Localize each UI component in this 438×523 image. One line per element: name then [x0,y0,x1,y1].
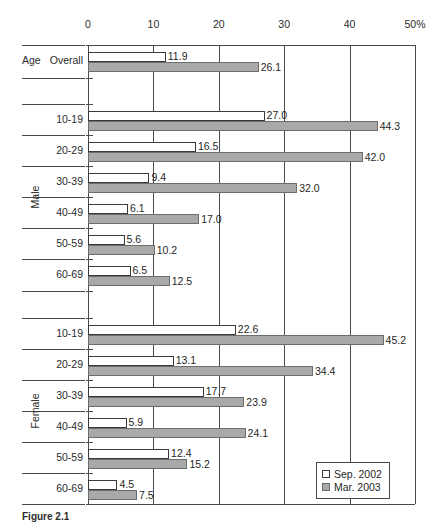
axis-row-tick [86,380,93,381]
bar-sep-2002 [88,387,204,397]
bar-chart: 01020304050%Overall10-1920-2930-3940-495… [0,0,438,523]
bar-sep-2002 [88,52,166,62]
group-label-female: Female [29,381,41,441]
bar-sep-2002 [88,204,128,214]
row-separator [22,45,85,46]
bar-sep-2002 [88,356,174,366]
row-separator [22,349,85,350]
row-separator [22,291,85,292]
axis-row-tick [86,166,93,167]
bar-mar-2003 [88,276,170,286]
bar-value-label: 22.6 [238,323,258,335]
category-label: 50-59 [25,237,85,249]
bar-mar-2003 [88,428,246,438]
bar-mar-2003 [88,490,137,500]
axis-row-tick [86,349,93,350]
bar-value-label: 5.9 [129,416,144,428]
bar-value-label: 42.0 [365,151,385,163]
axis-row-tick [86,197,93,198]
row-separator [22,135,85,136]
category-label: 60-69 [25,482,85,494]
row-separator [22,504,85,505]
row-separator [22,78,85,79]
bar-value-label: 23.9 [246,396,266,408]
axis-row-tick [86,504,93,505]
category-label: 20-29 [25,144,85,156]
legend-label: Sep. 2002 [334,468,382,480]
bar-value-label: 7.5 [139,489,154,501]
bar-sep-2002 [88,173,149,183]
bar-value-label: 12.5 [172,275,192,287]
row-separator [22,259,85,260]
category-label: 10-19 [25,113,85,125]
bar-value-label: 16.5 [198,140,218,152]
bar-mar-2003 [88,397,244,407]
gridline [415,45,416,504]
bar-value-label: 27.0 [267,109,287,121]
bar-sep-2002 [88,480,117,490]
legend-label: Mar. 2003 [334,481,381,493]
axis-row-tick [86,411,93,412]
bar-value-label: 4.5 [119,478,134,490]
bar-value-label: 17.7 [206,385,226,397]
x-axis-tick-label: 40 [325,18,375,30]
bar-sep-2002 [88,325,236,335]
bar-value-label: 44.3 [380,120,400,132]
open-square-swatch [322,470,330,478]
bar-value-label: 26.1 [261,61,281,73]
row-separator [22,104,85,105]
figure-caption: Figure 2.1 [22,511,69,523]
bar-value-label: 10.2 [157,244,177,256]
bar-mar-2003 [88,335,384,345]
x-axis-tick-label: 50% [390,18,438,30]
axis-row-tick [86,78,93,79]
bar-value-label: 34.4 [315,365,335,377]
x-axis-tick-label: 10 [128,18,178,30]
bar-mar-2003 [88,152,363,162]
bar-mar-2003 [88,214,199,224]
axis-row-tick [86,259,93,260]
row-separator [22,318,85,319]
bar-sep-2002 [88,266,131,276]
bar-mar-2003 [88,366,313,376]
category-label: 10-19 [25,327,85,339]
bar-sep-2002 [88,418,127,428]
bar-mar-2003 [88,245,155,255]
legend-item: Sep. 2002 [322,468,382,480]
axis-row-tick [86,442,93,443]
group-label-age: Age [22,54,41,66]
axis-row-tick [86,291,93,292]
axis-row-tick [86,135,93,136]
filled-square-swatch [322,483,330,491]
bar-value-label: 6.5 [133,264,148,276]
bar-value-label: 5.6 [127,233,142,245]
plot-frame-top [88,45,415,46]
bar-mar-2003 [88,121,378,131]
bar-sep-2002 [88,111,265,121]
axis-row-tick [86,45,93,46]
bar-sep-2002 [88,449,169,459]
legend-item: Mar. 2003 [322,481,382,493]
bar-mar-2003 [88,183,297,193]
x-axis-tick-label: 30 [259,18,309,30]
row-separator [22,228,85,229]
bar-value-label: 15.2 [189,458,209,470]
bar-mar-2003 [88,459,187,469]
bar-sep-2002 [88,142,196,152]
bar-sep-2002 [88,235,125,245]
row-separator [22,473,85,474]
gridline [350,45,351,504]
bar-value-label: 24.1 [248,427,268,439]
bar-mar-2003 [88,62,259,72]
bar-value-label: 6.1 [130,202,145,214]
axis-row-tick [86,473,93,474]
category-label: 20-29 [25,358,85,370]
category-label: 60-69 [25,268,85,280]
x-axis-tick-label: 20 [194,18,244,30]
bar-value-label: 32.0 [299,182,319,194]
bar-value-label: 11.9 [168,50,188,62]
group-label-male: Male [29,167,41,227]
category-label: 50-59 [25,451,85,463]
axis-row-tick [86,318,93,319]
x-axis-tick-label: 0 [63,18,113,30]
